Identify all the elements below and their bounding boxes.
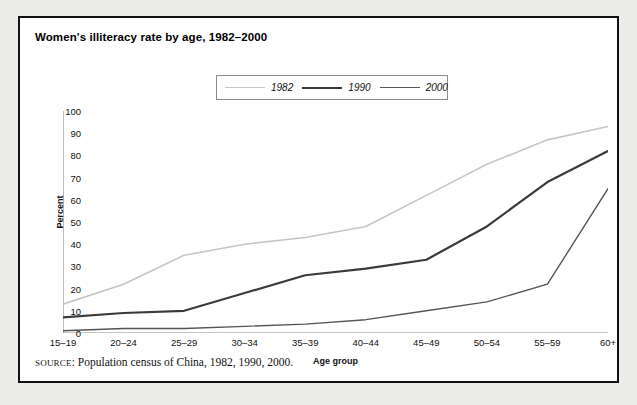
legend-swatch-1982 [225,87,265,88]
x-axis-ticks: 15–1920–2425–2930–3435–3940–4445–4950–54… [63,337,608,353]
y-axis-label: Percent [55,177,65,247]
x-tick-40–44: 40–44 [353,337,379,348]
legend-item-1990: 1990 [302,76,370,99]
x-tick-20–24: 20–24 [110,337,136,348]
y-axis-ticks: 0102030405060708090100 [63,111,81,333]
source-note: SOURCE: Population census of China, 1982… [35,356,293,368]
chart-legend: 198219902000 [216,75,448,100]
legend-item-1982: 1982 [225,76,293,99]
x-tick-45–49: 45–49 [413,337,439,348]
chart-svg [63,111,608,333]
legend-swatch-2000 [380,87,420,88]
legend-label-2000: 2000 [426,82,448,93]
y-tick-10: 10 [59,305,81,316]
plot-area: 0102030405060708090100 Percent [63,111,608,333]
x-tick-35–39: 35–39 [292,337,318,348]
x-tick-15–19: 15–19 [50,337,76,348]
x-tick-50–54: 50–54 [474,337,500,348]
source-prefix: SOURCE [35,358,72,368]
y-tick-90: 90 [59,128,81,139]
page-title: Women's illiteracy rate by age, 1982–200… [35,31,267,43]
y-tick-30: 30 [59,261,81,272]
y-tick-20: 20 [59,283,81,294]
x-tick-25–29: 25–29 [171,337,197,348]
y-tick-100: 100 [59,106,81,117]
y-tick-80: 80 [59,150,81,161]
legend-item-2000: 2000 [380,76,448,99]
legend-swatch-1990 [302,87,342,89]
figure-container: Women's illiteracy rate by age, 1982–200… [0,0,637,405]
x-tick-30–34: 30–34 [231,337,257,348]
x-tick-60+: 60+ [600,337,616,348]
x-tick-55–59: 55–59 [534,337,560,348]
source-text: : Population census of China, 1982, 1990… [72,356,293,368]
legend-label-1982: 1982 [271,82,293,93]
chart-panel: Women's illiteracy rate by age, 1982–200… [18,16,619,383]
legend-label-1990: 1990 [348,82,370,93]
